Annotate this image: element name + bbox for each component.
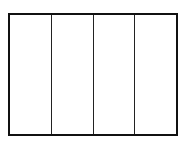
column-part-2 bbox=[52, 15, 94, 134]
column-part-1 bbox=[10, 15, 52, 134]
column-part-3 bbox=[94, 15, 136, 134]
column-part-4 bbox=[135, 15, 176, 134]
rectangle-divided-into-four-parts bbox=[8, 13, 178, 136]
